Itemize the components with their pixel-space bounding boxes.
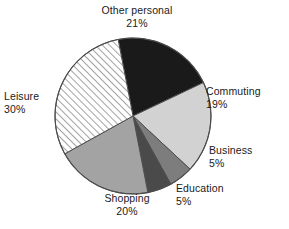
slice-label-leisure: Leisure 30%: [4, 90, 62, 115]
slice-label-shopping-value: 20%: [82, 205, 172, 218]
slice-label-commuting: Commuting 19%: [206, 85, 286, 110]
slice-label-commuting-value: 19%: [206, 98, 286, 111]
pie-chart: Other personal 21% Commuting 19% Busines…: [0, 0, 289, 229]
slice-label-leisure-value: 30%: [4, 103, 62, 116]
slice-label-business: Business 5%: [209, 144, 285, 169]
slice-label-commuting-name: Commuting: [206, 85, 286, 98]
slice-label-shopping: Shopping 20%: [82, 192, 172, 217]
slice-label-other-personal: Other personal 21%: [76, 4, 198, 29]
slice-label-shopping-name: Shopping: [82, 192, 172, 205]
pie-slices: [55, 38, 211, 194]
slice-label-education-name: Education: [176, 182, 256, 195]
slice-label-other-personal-value: 21%: [76, 17, 198, 30]
slice-label-other-personal-name: Other personal: [76, 4, 198, 17]
slice-label-leisure-name: Leisure: [4, 90, 62, 103]
slice-label-business-name: Business: [209, 144, 285, 157]
slice-label-education-value: 5%: [176, 195, 256, 208]
slice-label-education: Education 5%: [176, 182, 256, 207]
slice-label-business-value: 5%: [209, 157, 285, 170]
